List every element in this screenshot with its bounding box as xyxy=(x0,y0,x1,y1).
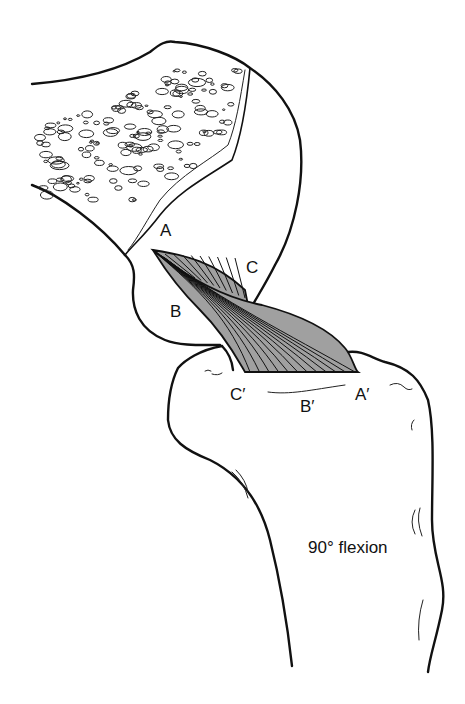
bone-cell xyxy=(228,103,234,107)
bone-cell xyxy=(138,181,149,186)
tibia-shading-4 xyxy=(411,420,414,430)
bone-cell xyxy=(95,160,105,165)
bone-cell xyxy=(148,111,163,118)
bone-cell xyxy=(176,150,181,153)
bone-cell xyxy=(44,160,48,162)
bone-cell xyxy=(79,178,83,180)
bone-cell xyxy=(94,157,99,159)
bone-cell xyxy=(128,179,136,183)
bone-cell xyxy=(110,179,118,184)
bone-cell xyxy=(109,164,113,166)
bone-cell xyxy=(168,141,184,149)
femur-bottom-outline xyxy=(32,185,125,255)
tibia-surface-line xyxy=(268,385,345,393)
bone-cell xyxy=(35,134,46,140)
bone-cell xyxy=(154,164,164,168)
femur xyxy=(32,41,301,345)
bone-cell xyxy=(50,161,69,169)
bone-cell xyxy=(64,118,67,120)
bone-cell xyxy=(78,147,83,151)
bone-cell xyxy=(68,118,72,120)
label-femur-c: C xyxy=(246,258,258,277)
bone-cell xyxy=(82,111,93,118)
anatomy-diagram: A B C C′ B′ A′ 90° flexion xyxy=(0,0,465,704)
cancellous-bone-texture xyxy=(35,69,243,203)
bone-cell xyxy=(94,121,100,125)
label-femur-b: B xyxy=(170,302,181,321)
bone-cell xyxy=(194,143,200,146)
bone-cell xyxy=(158,139,163,141)
bone-cell xyxy=(53,183,67,191)
tibia-mark-3 xyxy=(390,383,412,389)
bone-cell xyxy=(84,176,94,182)
bone-cell xyxy=(171,79,179,84)
bone-cell xyxy=(202,89,207,91)
bone-cell xyxy=(209,89,216,94)
bone-cell xyxy=(77,182,80,184)
bone-cell xyxy=(79,130,94,138)
bone-cell xyxy=(58,125,73,132)
tibia-shading-1 xyxy=(232,470,248,498)
bone-cell xyxy=(189,88,196,91)
bone-cell xyxy=(86,146,95,151)
bone-cell xyxy=(103,129,118,137)
bone-cell xyxy=(156,88,169,94)
label-tibia-c-prime: C′ xyxy=(230,385,245,404)
bone-cell xyxy=(188,93,193,95)
bone-cell xyxy=(148,144,160,151)
bone-cell xyxy=(57,122,60,124)
tibia-mark-1 xyxy=(205,370,211,371)
bone-cell xyxy=(198,71,206,76)
bone-cell xyxy=(85,193,89,196)
bone-cell xyxy=(107,166,118,171)
bone-cell xyxy=(172,111,184,118)
bone-cell xyxy=(145,105,148,106)
tibia-shading-2 xyxy=(412,508,422,536)
bone-cell xyxy=(152,117,166,124)
tibia-mark-2 xyxy=(212,373,222,375)
bone-cell xyxy=(206,111,218,117)
bone-cell xyxy=(165,173,179,180)
bone-cell xyxy=(77,115,80,117)
bone-cell xyxy=(164,106,171,109)
bone-cell xyxy=(187,142,193,145)
bone-cell xyxy=(107,128,120,134)
bone-cell xyxy=(195,105,205,111)
cartilage-line-inner xyxy=(128,70,245,250)
bone-cell xyxy=(70,187,80,192)
bone-cell xyxy=(96,142,99,144)
bone-cell xyxy=(83,121,88,124)
bone-cell xyxy=(48,179,57,184)
bone-cell xyxy=(189,163,197,168)
bone-cell xyxy=(88,197,98,202)
bone-cell xyxy=(82,152,91,158)
bone-cell xyxy=(179,158,183,160)
bone-cell xyxy=(158,135,163,137)
bone-cell xyxy=(223,109,225,111)
bone-cell xyxy=(115,186,122,191)
bone-cell xyxy=(211,83,214,85)
bone-cell xyxy=(56,178,63,181)
bone-cell xyxy=(206,78,213,82)
label-tibia-a-prime: A′ xyxy=(355,385,370,404)
label-femur-a: A xyxy=(160,221,172,240)
tibia xyxy=(168,346,443,672)
bone-cell xyxy=(168,167,174,170)
label-tibia-b-prime: B′ xyxy=(300,397,315,416)
bone-cell xyxy=(188,78,205,86)
bone-cell xyxy=(124,124,135,129)
bone-cell xyxy=(182,71,186,73)
figure-caption: 90° flexion xyxy=(308,538,388,557)
bone-cell xyxy=(192,99,200,103)
bone-cell xyxy=(40,151,53,157)
bone-cell xyxy=(118,142,127,148)
tibia-shading-3 xyxy=(419,600,424,640)
bone-cell xyxy=(204,130,213,136)
